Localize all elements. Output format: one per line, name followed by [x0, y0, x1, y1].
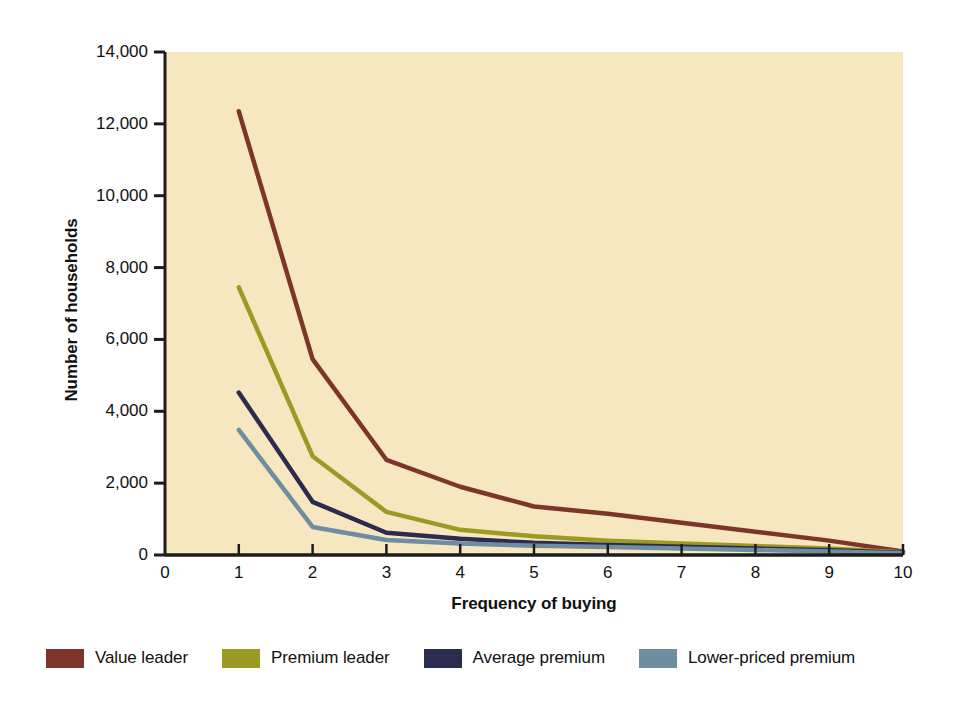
legend-item[interactable]: Lower-priced premium — [639, 648, 855, 668]
x-tick-label: 4 — [430, 563, 490, 583]
legend-item[interactable]: Value leader — [46, 648, 188, 668]
y-tick-label: 2,000 — [36, 473, 148, 493]
x-tick-label: 3 — [356, 563, 416, 583]
legend-label: Average premium — [473, 648, 605, 668]
legend-label: Value leader — [95, 648, 188, 668]
chart-legend: Value leaderPremium leaderAverage premiu… — [46, 645, 926, 671]
y-tick-label: 10,000 — [36, 186, 148, 206]
chart-figure: Number of households 02,0004,0006,0008,0… — [0, 0, 962, 701]
y-tick-label: 12,000 — [36, 114, 148, 134]
legend-label: Lower-priced premium — [688, 648, 855, 668]
x-tick-label: 0 — [135, 563, 195, 583]
legend-color-swatch — [46, 649, 84, 668]
y-tick-label: 0 — [36, 545, 148, 565]
legend-color-swatch — [639, 649, 677, 668]
legend-item[interactable]: Average premium — [424, 648, 605, 668]
x-tick-label: 7 — [652, 563, 712, 583]
y-axis-tick-labels: 02,0004,0006,0008,00010,00012,00014,000 — [30, 0, 148, 701]
x-tick-label: 2 — [283, 563, 343, 583]
x-tick-label: 9 — [799, 563, 859, 583]
y-tick-label: 4,000 — [36, 401, 148, 421]
plot-area — [165, 52, 903, 555]
x-tick-label: 8 — [725, 563, 785, 583]
y-tick-label: 14,000 — [36, 42, 148, 62]
x-tick-label: 1 — [209, 563, 269, 583]
x-tick-label: 10 — [873, 563, 933, 583]
legend-color-swatch — [424, 649, 462, 668]
legend-color-swatch — [222, 649, 260, 668]
x-tick-label: 6 — [578, 563, 638, 583]
y-tick-label: 8,000 — [36, 258, 148, 278]
legend-item[interactable]: Premium leader — [222, 648, 390, 668]
x-axis-title: Frequency of buying — [165, 594, 903, 614]
legend-label: Premium leader — [271, 648, 390, 668]
x-tick-label: 5 — [504, 563, 564, 583]
y-tick-label: 6,000 — [36, 329, 148, 349]
